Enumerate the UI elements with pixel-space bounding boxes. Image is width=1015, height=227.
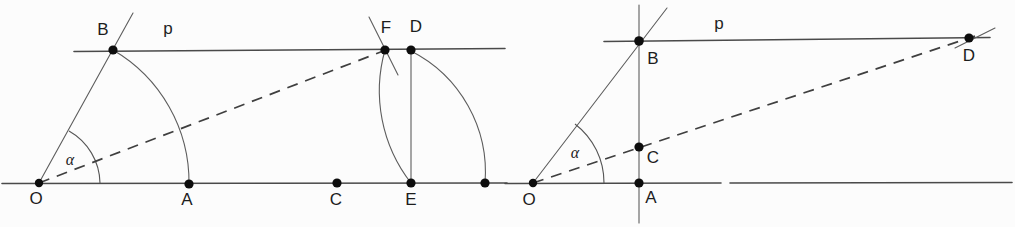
label-angle-alpha-left: α <box>66 151 75 168</box>
point-dot-a-left <box>184 179 193 188</box>
label-b-left: B <box>97 20 108 39</box>
point-dot-d-right <box>964 33 973 42</box>
label-e-left: E <box>405 190 416 209</box>
baseline-right-seg1 <box>505 183 721 184</box>
label-b-right: B <box>647 49 658 68</box>
label-f-left: F <box>381 18 391 37</box>
label-c-left: C <box>330 190 342 209</box>
right-construction: O B C A D p α <box>505 5 1012 223</box>
geometry-figure: O B A C F D E p α <box>0 0 1015 227</box>
arc-d-to-g <box>411 51 485 183</box>
point-dot-g-left <box>480 178 489 187</box>
dashed-ray-of <box>39 50 386 183</box>
baseline-left <box>2 183 507 184</box>
label-line-p-right: p <box>714 14 723 33</box>
point-dot-o-left <box>35 179 43 187</box>
point-dot-d-left <box>406 45 415 54</box>
label-c-right: C <box>647 148 659 167</box>
baseline-right-seg2 <box>730 183 1012 184</box>
label-angle-alpha-right: α <box>571 144 580 161</box>
ray-ob-left <box>39 13 133 183</box>
point-dot-e-left <box>406 178 415 187</box>
label-d-left: D <box>410 17 422 36</box>
point-dot-a-right <box>634 178 643 187</box>
parallel-line-p-left <box>74 49 505 52</box>
label-o-left: O <box>29 189 42 208</box>
point-dot-c-right <box>634 142 643 151</box>
label-a-left: A <box>181 190 193 209</box>
point-dot-c-left <box>332 178 341 187</box>
left-construction: O B A C F D E p α <box>2 13 507 209</box>
label-a-right: A <box>645 188 657 207</box>
parallel-line-p-right <box>604 38 990 42</box>
point-dot-o-right <box>529 179 537 187</box>
point-dot-f-left <box>380 45 389 54</box>
angle-arc-right <box>575 124 604 183</box>
label-line-p-left: p <box>163 19 172 38</box>
dashed-ray-od <box>533 36 975 183</box>
diagram-page: O B A C F D E p α <box>0 0 1015 227</box>
point-dot-b-left <box>108 45 117 54</box>
label-o-right: O <box>522 190 535 209</box>
label-d-right: D <box>963 46 975 65</box>
point-dot-b-right <box>634 36 644 46</box>
arc-b-to-a <box>113 50 189 184</box>
